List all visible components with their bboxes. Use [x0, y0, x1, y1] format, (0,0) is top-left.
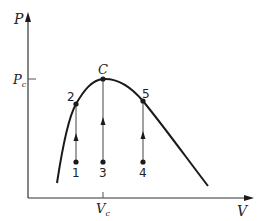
point-label-1: 1: [72, 166, 80, 180]
coexistence-curve: [57, 79, 208, 186]
arrow-up-icon: [141, 131, 146, 139]
y-axis-arrow-icon: [25, 12, 31, 22]
point-c: [100, 76, 105, 81]
arrow-up-icon: [101, 117, 106, 125]
critical-point-label: C: [98, 62, 108, 77]
point-4: [140, 159, 145, 164]
pv-diagram: P V Pc Vc C 2 5 1 3 4: [0, 0, 262, 221]
point-label-2: 2: [67, 90, 75, 104]
point-label-3: 3: [99, 166, 107, 180]
point-label-5: 5: [142, 87, 150, 101]
x-axis-label: V: [237, 203, 249, 219]
y-axis-label: P: [13, 11, 24, 27]
pc-label: Pc: [12, 72, 27, 89]
point-3: [100, 159, 105, 164]
point-label-4: 4: [139, 166, 147, 180]
arrow-up-icon: [74, 133, 79, 141]
x-axis-arrow-icon: [244, 195, 254, 201]
vc-label: Vc: [96, 201, 110, 218]
point-1: [73, 159, 78, 164]
